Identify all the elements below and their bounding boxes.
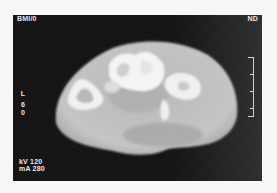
ct-image-panel: BMI/0 ND L 6 0 kV 120 mA 280 [13, 15, 262, 181]
side-label-l: L [19, 90, 27, 98]
ct-cross-section [13, 15, 262, 181]
side-label-0: 0 [19, 109, 27, 117]
side-orientation-label: L 6 0 [19, 90, 27, 117]
header-left-label: BMI/0 [17, 15, 37, 23]
side-label-6: 6 [19, 101, 27, 109]
scale-bar [248, 57, 254, 117]
header-right-label: ND [247, 15, 258, 23]
ma-label: mA 280 [19, 165, 45, 173]
